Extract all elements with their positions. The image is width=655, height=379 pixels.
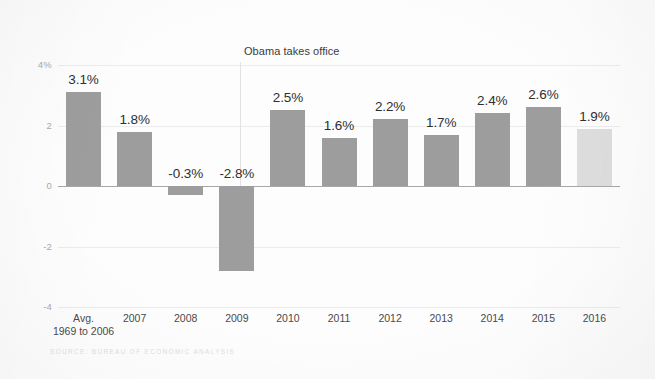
bar[interactable] (424, 135, 459, 186)
gridline (58, 65, 620, 66)
source-note: SOURCE: BUREAU OF ECONOMIC ANALYSIS (50, 348, 235, 355)
bar-value-label: 2.6% (503, 87, 583, 102)
bar-value-label: 1.6% (299, 118, 379, 133)
y-tick: -4 (8, 302, 52, 312)
x-tick-label: 2016 (544, 312, 644, 325)
y-tick: -2 (8, 242, 52, 252)
gridline (58, 247, 620, 248)
gridline (58, 307, 620, 308)
chart-screenshot: 4%20-2-4 Obama takes office 3.1%1.8%-0.3… (0, 0, 655, 379)
obama-annotation-label: Obama takes office (244, 45, 339, 57)
bar[interactable] (66, 92, 101, 186)
x-tick-label-line1: 2016 (583, 312, 606, 324)
y-tick-label: 0 (18, 181, 52, 191)
x-tick-label-line2: 1969 to 2006 (34, 325, 134, 338)
bar[interactable] (219, 186, 254, 271)
y-tick: 4% (8, 60, 52, 70)
y-tick-label: 4% (18, 60, 52, 70)
y-tick: 0 (8, 181, 52, 191)
bar-value-label: -2.8% (197, 166, 277, 181)
zero-axis-line (58, 186, 620, 187)
bar-chart: 4%20-2-4 Obama takes office 3.1%1.8%-0.3… (0, 0, 655, 379)
bar-value-label: 2.5% (248, 90, 328, 105)
y-tick-label: -2 (18, 242, 52, 252)
y-tick-label: -4 (18, 302, 52, 312)
bar-value-label: 1.7% (401, 115, 481, 130)
bar[interactable] (168, 186, 203, 195)
bar[interactable] (322, 138, 357, 186)
bar-value-label: 2.2% (350, 99, 430, 114)
bar[interactable] (577, 129, 612, 186)
bar-value-label: 1.8% (95, 112, 175, 127)
y-tick: 2 (8, 121, 52, 131)
y-tick-label: 2 (18, 121, 52, 131)
bar-value-label: 3.1% (44, 72, 124, 87)
bar-value-label: 1.9% (554, 109, 634, 124)
